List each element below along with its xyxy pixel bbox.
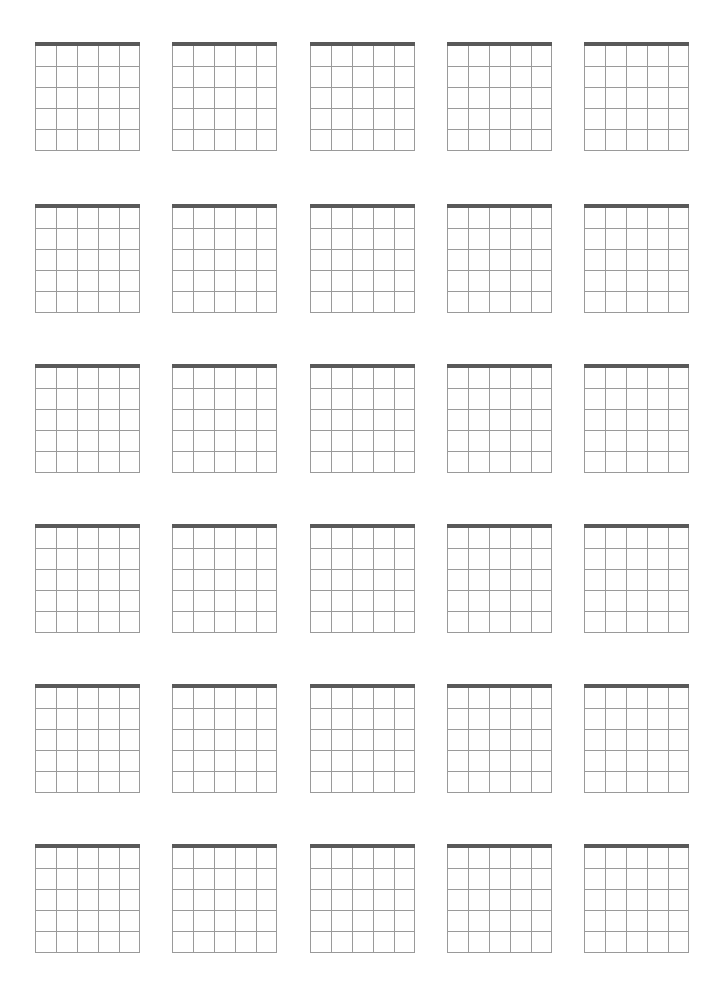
chord-diagram[interactable] bbox=[35, 363, 140, 473]
chord-diagram[interactable] bbox=[584, 41, 689, 151]
nut-bar bbox=[310, 364, 415, 368]
nut-bar bbox=[584, 204, 689, 208]
nut-bar bbox=[584, 524, 689, 528]
chord-diagram[interactable] bbox=[35, 683, 140, 793]
chord-diagram[interactable] bbox=[447, 843, 552, 953]
chord-diagram[interactable] bbox=[584, 843, 689, 953]
chord-diagram-row bbox=[0, 683, 704, 795]
chord-diagram[interactable] bbox=[172, 683, 277, 793]
chord-diagram-row bbox=[0, 203, 704, 315]
chord-diagram[interactable] bbox=[310, 203, 415, 313]
nut-bar bbox=[447, 524, 552, 528]
chord-diagram[interactable] bbox=[310, 683, 415, 793]
chord-diagram[interactable] bbox=[172, 523, 277, 633]
nut-bar bbox=[447, 204, 552, 208]
nut-bar bbox=[447, 844, 552, 848]
nut-bar bbox=[310, 204, 415, 208]
chord-diagram[interactable] bbox=[35, 203, 140, 313]
nut-bar bbox=[310, 684, 415, 688]
chord-diagram-row bbox=[0, 523, 704, 635]
nut-bar bbox=[35, 524, 140, 528]
chord-diagram-row bbox=[0, 843, 704, 955]
chord-diagram[interactable] bbox=[447, 363, 552, 473]
nut-bar bbox=[172, 684, 277, 688]
nut-bar bbox=[172, 364, 277, 368]
nut-bar bbox=[172, 524, 277, 528]
chord-diagram[interactable] bbox=[310, 843, 415, 953]
chord-diagram[interactable] bbox=[584, 683, 689, 793]
nut-bar bbox=[310, 524, 415, 528]
nut-bar bbox=[584, 364, 689, 368]
chord-diagram[interactable] bbox=[310, 363, 415, 473]
nut-bar bbox=[310, 42, 415, 46]
nut-bar bbox=[584, 844, 689, 848]
chord-diagram[interactable] bbox=[447, 683, 552, 793]
chord-diagram[interactable] bbox=[35, 41, 140, 151]
chord-diagram[interactable] bbox=[584, 363, 689, 473]
nut-bar bbox=[172, 204, 277, 208]
nut-bar bbox=[447, 684, 552, 688]
nut-bar bbox=[584, 42, 689, 46]
chord-diagram-row bbox=[0, 41, 704, 153]
chord-chart-sheet bbox=[0, 0, 704, 1002]
chord-diagram[interactable] bbox=[172, 363, 277, 473]
nut-bar bbox=[172, 844, 277, 848]
chord-diagram[interactable] bbox=[447, 203, 552, 313]
chord-diagram[interactable] bbox=[35, 523, 140, 633]
chord-diagram[interactable] bbox=[172, 203, 277, 313]
chord-diagram-row bbox=[0, 363, 704, 475]
nut-bar bbox=[35, 684, 140, 688]
chord-diagram[interactable] bbox=[447, 523, 552, 633]
chord-diagram[interactable] bbox=[447, 41, 552, 151]
chord-diagram[interactable] bbox=[172, 41, 277, 151]
nut-bar bbox=[35, 844, 140, 848]
chord-diagram[interactable] bbox=[310, 523, 415, 633]
nut-bar bbox=[35, 42, 140, 46]
chord-diagram[interactable] bbox=[35, 843, 140, 953]
chord-diagram[interactable] bbox=[172, 843, 277, 953]
chord-diagram[interactable] bbox=[584, 203, 689, 313]
nut-bar bbox=[447, 42, 552, 46]
nut-bar bbox=[447, 364, 552, 368]
chord-diagram[interactable] bbox=[584, 523, 689, 633]
nut-bar bbox=[172, 42, 277, 46]
nut-bar bbox=[310, 844, 415, 848]
nut-bar bbox=[584, 684, 689, 688]
nut-bar bbox=[35, 364, 140, 368]
chord-diagram[interactable] bbox=[310, 41, 415, 151]
nut-bar bbox=[35, 204, 140, 208]
